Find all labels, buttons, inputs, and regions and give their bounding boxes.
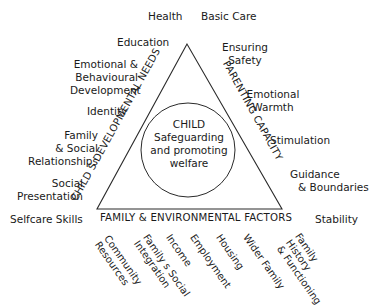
capacity-guidance-boundaries: Guidance & Boundaries: [290, 168, 366, 194]
center-line-1: Safeguarding: [143, 131, 235, 144]
need-line: & Social: [20, 142, 98, 155]
capacity-line: Warmth: [242, 101, 304, 114]
need-selfcare-skills: Selfcare Skills: [10, 213, 83, 226]
need-line: Presentation: [10, 190, 83, 203]
center-heading: CHILD: [143, 118, 235, 131]
side-title-bottom: FAMILY & ENVIRONMENTAL FACTORS: [100, 212, 280, 223]
center-line-3: welfare: [143, 157, 235, 170]
need-line: Social: [10, 177, 83, 190]
capacity-line: Emotional: [242, 88, 304, 101]
capacity-line: Safety: [214, 54, 276, 67]
capacity-stability: Stability: [315, 213, 358, 226]
need-family-social-relationships: Family & Social Relationships: [20, 129, 98, 168]
capacity-emotional-warmth: Emotional Warmth: [242, 88, 304, 114]
need-identity: Identity: [87, 105, 127, 118]
need-line: Development: [70, 84, 138, 97]
need-line: Behavioural: [70, 71, 138, 84]
need-social-presentation: Social Presentation: [10, 177, 83, 203]
need-health: Health: [148, 10, 182, 23]
need-emotional-behavioural-development: Emotional & Behavioural Development: [70, 58, 138, 97]
capacity-line: Ensuring: [214, 41, 276, 54]
center-label: CHILD Safeguarding and promoting welfare: [143, 118, 235, 170]
need-education: Education: [117, 36, 169, 49]
need-line: Relationships: [20, 155, 98, 168]
capacity-basic-care: Basic Care: [201, 10, 256, 23]
need-line: Family: [20, 129, 98, 142]
need-line: Emotional &: [70, 58, 138, 71]
capacity-stimulation: Stimulation: [270, 134, 330, 147]
capacity-ensuring-safety: Ensuring Safety: [214, 41, 276, 67]
capacity-line: Guidance: [290, 168, 366, 181]
capacity-line: & Boundaries: [290, 181, 366, 194]
center-line-2: and promoting: [143, 144, 235, 157]
